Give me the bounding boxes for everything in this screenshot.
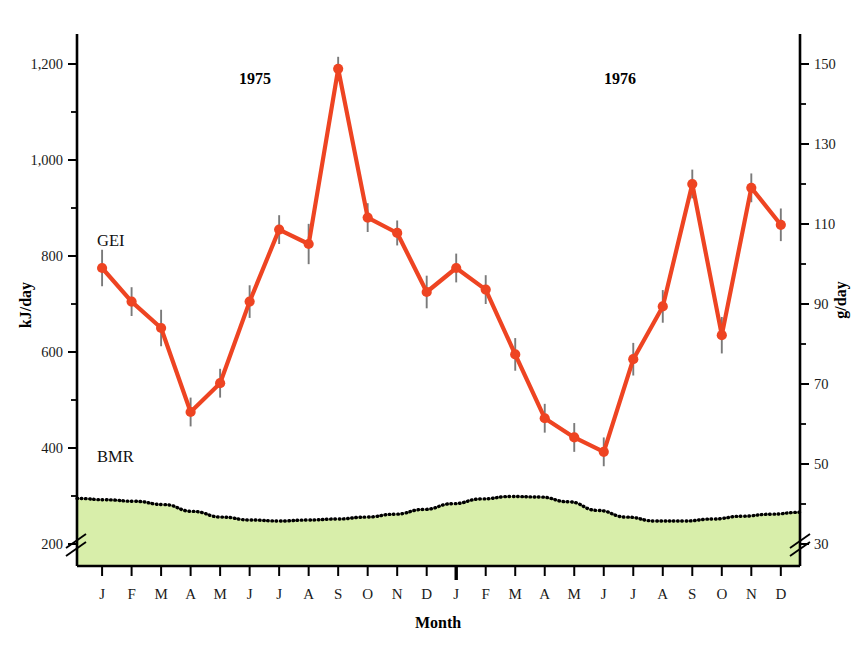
x-tick-label: M xyxy=(568,586,581,602)
x-tick-label: J xyxy=(630,586,636,602)
x-tick-label: F xyxy=(127,586,135,602)
left-tick-label: 400 xyxy=(41,440,63,456)
x-tick-label: S xyxy=(334,586,342,602)
right-tick-label: 90 xyxy=(814,296,829,312)
y-axis-title: kJ/day xyxy=(17,282,35,328)
chart-figure: 2004006008001,0001,200 30507090110130150… xyxy=(0,0,862,649)
x-tick-label: J xyxy=(601,586,607,602)
gei-data-point xyxy=(687,179,697,189)
gei-data-point xyxy=(186,407,196,417)
x-tick-label: M xyxy=(154,586,167,602)
gei-data-point xyxy=(569,432,579,442)
x-tick-label: A xyxy=(539,586,550,602)
gei-data-point xyxy=(156,323,166,333)
gei-data-point xyxy=(481,285,491,295)
gei-data-point xyxy=(215,378,225,388)
gei-series-label: GEI xyxy=(97,231,125,250)
left-tick-label: 200 xyxy=(41,536,63,552)
gei-data-point xyxy=(510,349,520,359)
year-label-1975: 1975 xyxy=(239,70,271,87)
y2-axis-title: g/day xyxy=(832,281,850,318)
x-tick-label: M xyxy=(213,586,226,602)
left-tick-label: 800 xyxy=(41,248,63,264)
x-tick-label: J xyxy=(453,586,459,602)
gei-data-point xyxy=(540,413,550,423)
right-tick-label: 150 xyxy=(814,56,836,72)
x-tick-label: A xyxy=(303,586,314,602)
x-tick-label: N xyxy=(746,586,757,602)
x-tick-label: D xyxy=(775,586,786,602)
right-tick-label: 110 xyxy=(814,216,835,232)
x-tick-label: J xyxy=(247,586,253,602)
left-tick-label: 1,200 xyxy=(30,56,63,72)
bmr-series-label: BMR xyxy=(97,447,134,466)
x-tick-label: A xyxy=(185,586,196,602)
left-tick-label: 1,000 xyxy=(30,152,63,168)
x-tick-label: A xyxy=(657,586,668,602)
right-tick-label: 30 xyxy=(814,536,829,552)
gei-data-point xyxy=(304,239,314,249)
right-tick-label: 50 xyxy=(814,456,829,472)
gei-data-point xyxy=(422,287,432,297)
x-tick-label: J xyxy=(276,586,282,602)
gei-data-point xyxy=(628,354,638,364)
gei-data-point xyxy=(717,330,727,340)
gei-data-point xyxy=(451,263,461,273)
gei-data-point xyxy=(97,263,107,273)
x-tick-label: S xyxy=(688,586,696,602)
gei-data-point xyxy=(776,220,786,230)
right-tick-label: 70 xyxy=(814,376,829,392)
gei-data-point xyxy=(599,447,609,457)
gei-data-point xyxy=(274,225,284,235)
x-tick-label: D xyxy=(421,586,432,602)
x-axis-title: Month xyxy=(415,614,461,631)
gei-data-point xyxy=(333,64,343,74)
x-tick-label: J xyxy=(99,586,105,602)
right-tick-label: 130 xyxy=(814,136,836,152)
x-tick-label: O xyxy=(362,586,373,602)
x-tick-label: N xyxy=(392,586,403,602)
gei-data-point xyxy=(658,301,668,311)
gei-data-point xyxy=(245,297,255,307)
gei-data-point xyxy=(363,213,373,223)
year-label-1976: 1976 xyxy=(604,70,636,87)
x-tick-label: O xyxy=(716,586,727,602)
x-tick-label: M xyxy=(509,586,522,602)
gei-data-point xyxy=(126,297,136,307)
left-tick-label: 600 xyxy=(41,344,63,360)
x-tick-label: F xyxy=(482,586,490,602)
gei-data-point xyxy=(392,228,402,238)
gei-data-point xyxy=(746,183,756,193)
energy-intake-chart: 2004006008001,0001,200 30507090110130150… xyxy=(0,0,862,649)
